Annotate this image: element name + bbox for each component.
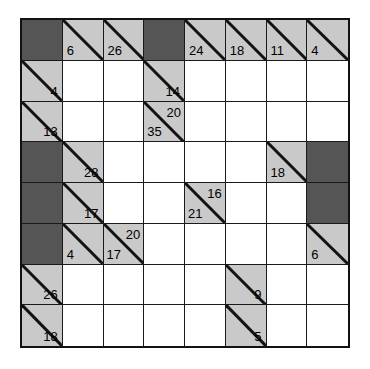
entry-cell[interactable] bbox=[267, 183, 308, 224]
entry-cell[interactable] bbox=[267, 305, 308, 346]
entry-cell[interactable] bbox=[267, 102, 308, 143]
clue-down-value: 24 bbox=[189, 44, 203, 57]
entry-cell[interactable] bbox=[307, 265, 348, 306]
entry-cell[interactable] bbox=[63, 102, 104, 143]
clue-cell: 13 bbox=[22, 102, 63, 143]
clue-cell: 18 bbox=[22, 305, 63, 346]
clue-down-value: 17 bbox=[107, 248, 121, 261]
clue-down-value: 21 bbox=[188, 207, 202, 220]
clue-cell: 24 bbox=[185, 20, 226, 61]
clue-cell: 1621 bbox=[185, 183, 226, 224]
entry-cell[interactable] bbox=[267, 224, 308, 265]
entry-cell[interactable] bbox=[104, 305, 145, 346]
clue-down-value: 6 bbox=[67, 44, 74, 57]
entry-cell[interactable] bbox=[144, 142, 185, 183]
clue-down-value: 6 bbox=[311, 248, 318, 261]
clue-cell: 4 bbox=[63, 224, 104, 265]
entry-cell[interactable] bbox=[185, 224, 226, 265]
clue-across-value: 16 bbox=[207, 187, 221, 200]
entry-cell[interactable] bbox=[144, 265, 185, 306]
clue-down-value: 18 bbox=[271, 166, 285, 179]
clue-across-value: 28 bbox=[84, 166, 98, 179]
entry-cell[interactable] bbox=[63, 265, 104, 306]
entry-cell[interactable] bbox=[144, 305, 185, 346]
clue-down-value: 4 bbox=[67, 248, 74, 261]
block-cell bbox=[22, 183, 63, 224]
block-cell bbox=[22, 224, 63, 265]
kakuro-grid: 6262418114414132035281817162142017626918… bbox=[20, 18, 350, 348]
entry-cell[interactable] bbox=[267, 265, 308, 306]
clue-cell: 4 bbox=[22, 61, 63, 102]
clue-down-value: 18 bbox=[230, 44, 244, 57]
entry-cell[interactable] bbox=[104, 102, 145, 143]
entry-cell[interactable] bbox=[307, 61, 348, 102]
clue-across-value: 4 bbox=[51, 85, 58, 98]
entry-cell[interactable] bbox=[185, 265, 226, 306]
entry-cell[interactable] bbox=[185, 305, 226, 346]
clue-cell: 14 bbox=[144, 61, 185, 102]
entry-cell[interactable] bbox=[104, 265, 145, 306]
kakuro-puzzle-container: 6262418114414132035281817162142017626918… bbox=[0, 0, 370, 369]
clue-across-value: 26 bbox=[43, 288, 57, 301]
clue-down-value: 11 bbox=[271, 44, 285, 57]
clue-across-value: 9 bbox=[254, 288, 261, 301]
entry-cell[interactable] bbox=[104, 61, 145, 102]
entry-cell[interactable] bbox=[63, 61, 104, 102]
entry-cell[interactable] bbox=[104, 183, 145, 224]
clue-cell: 17 bbox=[63, 183, 104, 224]
clue-across-value: 13 bbox=[43, 125, 57, 138]
clue-cell: 26 bbox=[22, 265, 63, 306]
entry-cell[interactable] bbox=[226, 142, 267, 183]
clue-cell: 18 bbox=[226, 20, 267, 61]
clue-cell: 2035 bbox=[144, 102, 185, 143]
clue-cell: 4 bbox=[307, 20, 348, 61]
clue-across-value: 17 bbox=[84, 207, 98, 220]
block-cell bbox=[22, 20, 63, 61]
clue-cell: 6 bbox=[63, 20, 104, 61]
entry-cell[interactable] bbox=[185, 142, 226, 183]
clue-down-value: 26 bbox=[108, 44, 122, 57]
clue-down-value: 4 bbox=[311, 44, 318, 57]
clue-down-value: 35 bbox=[147, 125, 161, 138]
clue-across-value: 14 bbox=[166, 85, 180, 98]
entry-cell[interactable] bbox=[267, 61, 308, 102]
entry-cell[interactable] bbox=[307, 102, 348, 143]
clue-cell: 2017 bbox=[104, 224, 145, 265]
clue-cell: 6 bbox=[307, 224, 348, 265]
block-cell bbox=[144, 20, 185, 61]
entry-cell[interactable] bbox=[185, 102, 226, 143]
block-cell bbox=[22, 142, 63, 183]
entry-cell[interactable] bbox=[63, 305, 104, 346]
entry-cell[interactable] bbox=[144, 183, 185, 224]
clue-cell: 26 bbox=[104, 20, 145, 61]
clue-cell: 18 bbox=[267, 142, 308, 183]
clue-across-value: 18 bbox=[43, 330, 57, 343]
entry-cell[interactable] bbox=[144, 224, 185, 265]
block-cell bbox=[307, 183, 348, 224]
entry-cell[interactable] bbox=[226, 61, 267, 102]
clue-cell: 9 bbox=[226, 265, 267, 306]
clue-cell: 28 bbox=[63, 142, 104, 183]
clue-cell: 5 bbox=[226, 305, 267, 346]
entry-cell[interactable] bbox=[226, 224, 267, 265]
clue-across-value: 20 bbox=[167, 106, 181, 119]
clue-across-value: 20 bbox=[126, 228, 140, 241]
clue-across-value: 5 bbox=[254, 330, 261, 343]
block-cell bbox=[307, 142, 348, 183]
entry-cell[interactable] bbox=[226, 102, 267, 143]
entry-cell[interactable] bbox=[307, 305, 348, 346]
entry-cell[interactable] bbox=[104, 142, 145, 183]
entry-cell[interactable] bbox=[226, 183, 267, 224]
entry-cell[interactable] bbox=[185, 61, 226, 102]
clue-cell: 11 bbox=[267, 20, 308, 61]
